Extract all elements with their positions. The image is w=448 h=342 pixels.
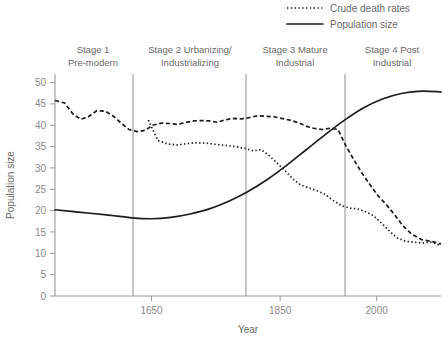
y-tick-label-25: 25: [35, 184, 47, 195]
series-crude-death-rates-lower: [148, 120, 441, 246]
x-axis-title: Year: [238, 324, 259, 335]
series-population-size: [55, 91, 441, 219]
x-tick-label-1850: 1850: [269, 305, 292, 316]
stage-2-label-line2: Industrializing: [161, 57, 219, 68]
y-tick-label-10: 10: [35, 248, 47, 259]
y-axis-ticks: 05101520253035404550: [35, 77, 55, 301]
y-tick-label-30: 30: [35, 163, 47, 174]
y-axis-title: Population size: [5, 151, 16, 219]
y-tick-label-40: 40: [35, 120, 47, 131]
legend-label-crude-death-rates: Crude death rates: [330, 3, 410, 14]
y-tick-label-15: 15: [35, 227, 47, 238]
y-tick-label-50: 50: [35, 77, 47, 88]
stage-divider-lines: [133, 74, 345, 296]
legend-label-population-size: Population size: [330, 19, 398, 30]
y-axis: 05101520253035404550 Population size: [5, 74, 55, 302]
y-tick-label-45: 45: [35, 98, 47, 109]
stage-3-label-line2: Industrial: [276, 57, 315, 68]
chart-legend: Crude death rates Population size: [287, 3, 410, 30]
stage-2-label-line1: Stage 2 Urbanizing/: [148, 44, 232, 55]
stage-1-label-line1: Stage 1: [77, 44, 110, 55]
chart-container: Crude death rates Population size Stage …: [0, 0, 448, 342]
series-crude-death-rates-upper: [55, 100, 441, 243]
demographic-transition-chart: Crude death rates Population size Stage …: [0, 0, 448, 342]
y-tick-label-5: 5: [40, 269, 46, 280]
stage-4-label-line2: Industrial: [373, 57, 412, 68]
x-axis: 165018502000 Year: [55, 296, 441, 335]
stage-annotations: Stage 1 Pre-modern Stage 2 Urbanizing/ I…: [68, 44, 420, 68]
x-axis-ticks: 165018502000: [140, 296, 388, 316]
x-tick-label-1650: 1650: [140, 305, 163, 316]
y-tick-label-0: 0: [40, 291, 46, 302]
stage-4-label-line1: Stage 4 Post: [365, 44, 420, 55]
y-tick-label-35: 35: [35, 141, 47, 152]
y-tick-label-20: 20: [35, 205, 47, 216]
stage-1-label-line2: Pre-modern: [68, 57, 118, 68]
stage-3-label-line1: Stage 3 Mature: [263, 44, 328, 55]
chart-series-layer: [55, 91, 441, 246]
x-tick-label-2000: 2000: [366, 305, 389, 316]
